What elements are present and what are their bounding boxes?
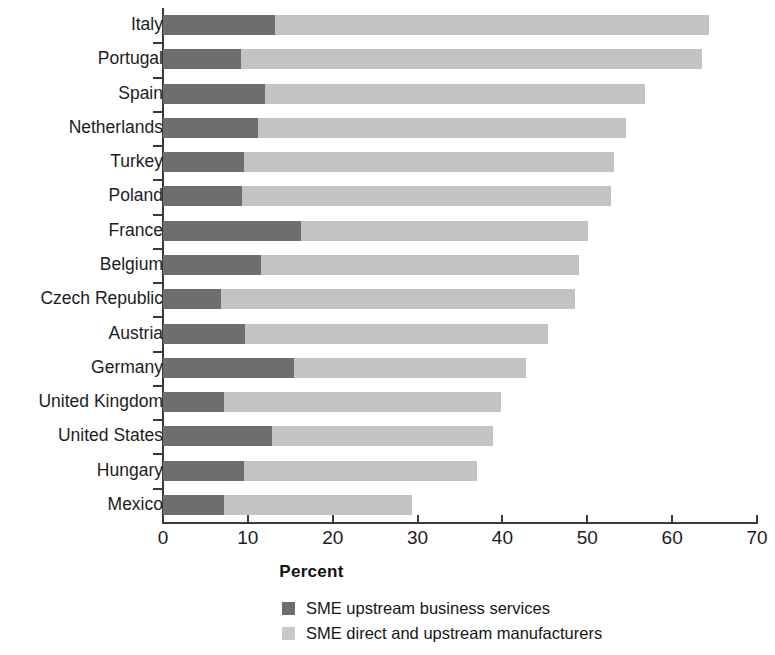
x-tick-label: 70 — [746, 528, 767, 547]
bar-segment-upstream-business-services — [163, 461, 244, 481]
bar-segment-direct-upstream-manufacturers — [224, 392, 501, 412]
category-label: Spain — [118, 85, 163, 103]
category-label: Mexico — [108, 496, 163, 514]
y-tick — [153, 248, 163, 250]
x-tick-label: 50 — [577, 528, 598, 547]
category-label: United Kingdom — [38, 393, 163, 411]
bar-segment-direct-upstream-manufacturers — [224, 495, 412, 515]
legend-item-upstream-business-services: SME upstream business services — [282, 596, 602, 621]
bar-segment-direct-upstream-manufacturers — [301, 221, 588, 241]
bar-row — [0, 84, 775, 104]
bar-segment-upstream-business-services — [163, 186, 242, 206]
y-tick — [153, 419, 163, 421]
x-tick-label: 40 — [492, 528, 513, 547]
x-tick — [247, 515, 249, 524]
y-tick — [153, 111, 163, 113]
category-label: Turkey — [110, 153, 163, 171]
category-label: Czech Republic — [40, 290, 163, 308]
x-axis-title-text: Percent — [279, 562, 343, 581]
y-tick — [153, 214, 163, 216]
x-tick-label: 10 — [237, 528, 258, 547]
x-tick — [417, 515, 419, 524]
bar-segment-direct-upstream-manufacturers — [275, 15, 709, 35]
category-label: Austria — [109, 325, 163, 343]
legend-label-dark: SME upstream business services — [306, 600, 550, 617]
y-tick — [153, 77, 163, 79]
category-label: Netherlands — [69, 119, 163, 137]
bar-segment-upstream-business-services — [163, 324, 245, 344]
bar-segment-upstream-business-services — [163, 426, 272, 446]
y-tick — [153, 453, 163, 455]
bar-segment-upstream-business-services — [163, 152, 244, 172]
y-tick — [153, 351, 163, 353]
x-tick — [586, 515, 588, 524]
x-tick — [756, 515, 758, 524]
bar-segment-upstream-business-services — [163, 221, 301, 241]
bar-segment-upstream-business-services — [163, 289, 221, 309]
x-tick — [671, 515, 673, 524]
bar-segment-direct-upstream-manufacturers — [294, 358, 527, 378]
y-tick — [153, 385, 163, 387]
category-label: Belgium — [100, 256, 163, 274]
y-tick — [153, 488, 163, 490]
x-tick-label: 60 — [662, 528, 683, 547]
bar-segment-upstream-business-services — [163, 118, 258, 138]
category-label: Italy — [131, 16, 163, 34]
category-label: Poland — [109, 187, 164, 205]
legend-swatch-icon-dark — [282, 602, 295, 615]
stacked-bar-chart: ItalyPortugalSpainNetherlandsTurkeyPolan… — [0, 0, 775, 655]
x-tick — [501, 515, 503, 524]
legend-swatch-icon-light — [282, 627, 295, 640]
bar-segment-direct-upstream-manufacturers — [261, 255, 579, 275]
bar-segment-direct-upstream-manufacturers — [265, 84, 645, 104]
category-label: Portugal — [98, 50, 163, 68]
bar-segment-direct-upstream-manufacturers — [242, 186, 611, 206]
bar-segment-direct-upstream-manufacturers — [258, 118, 626, 138]
bar-segment-upstream-business-services — [163, 495, 224, 515]
legend: SME upstream business services SME direc… — [282, 596, 602, 646]
x-tick — [332, 515, 334, 524]
bar-segment-upstream-business-services — [163, 358, 294, 378]
category-label: Hungary — [97, 462, 163, 480]
legend-item-direct-upstream-manufacturers: SME direct and upstream manufacturers — [282, 621, 602, 646]
x-tick-label: 0 — [158, 528, 169, 547]
x-tick-label: 20 — [322, 528, 343, 547]
bar-segment-direct-upstream-manufacturers — [244, 152, 615, 172]
bar-segment-upstream-business-services — [163, 49, 241, 69]
category-label: Germany — [91, 359, 163, 377]
y-tick — [153, 145, 163, 147]
bar-row — [0, 15, 775, 35]
x-tick-label: 30 — [407, 528, 428, 547]
bar-segment-direct-upstream-manufacturers — [241, 49, 702, 69]
category-label: United States — [58, 427, 163, 445]
bar-segment-upstream-business-services — [163, 15, 275, 35]
legend-label-light: SME direct and upstream manufacturers — [306, 625, 602, 642]
y-tick — [153, 42, 163, 44]
bar-segment-upstream-business-services — [163, 255, 261, 275]
bar-segment-direct-upstream-manufacturers — [272, 426, 493, 446]
y-tick — [153, 316, 163, 318]
y-tick — [153, 179, 163, 181]
bar-segment-upstream-business-services — [163, 84, 265, 104]
x-axis-title: Percent — [0, 562, 775, 582]
category-label: France — [109, 222, 163, 240]
bar-segment-direct-upstream-manufacturers — [221, 289, 576, 309]
bar-segment-direct-upstream-manufacturers — [245, 324, 548, 344]
bar-segment-upstream-business-services — [163, 392, 224, 412]
x-tick — [162, 515, 164, 524]
y-tick — [153, 282, 163, 284]
bar-segment-direct-upstream-manufacturers — [244, 461, 477, 481]
